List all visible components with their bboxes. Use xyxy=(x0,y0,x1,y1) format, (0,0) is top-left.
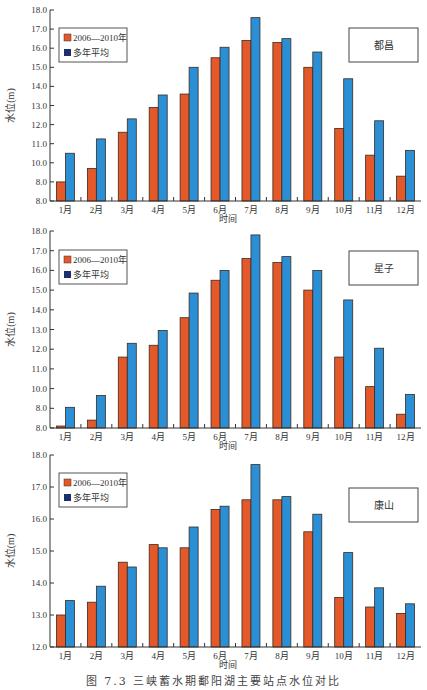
bar-average-5 xyxy=(189,527,198,647)
bar-recent-6 xyxy=(211,509,220,647)
station-title: 都昌 xyxy=(374,40,394,51)
chart-duchang: 1月2月3月4月5月6月7月8月9月10月11月12月8.08.010.011.… xyxy=(0,0,427,225)
bar-average-3 xyxy=(127,343,136,428)
y-tick-label: 13.0 xyxy=(31,101,47,111)
y-tick-label: 17.0 xyxy=(31,246,47,256)
x-tick-label: 10月 xyxy=(335,651,353,661)
y-tick-label: 10.0 xyxy=(31,384,47,394)
y-tick-label: 14.0 xyxy=(31,305,47,315)
bar-average-12 xyxy=(406,395,415,428)
y-tick-label: 15.0 xyxy=(31,62,47,72)
x-tick-label: 3月 xyxy=(121,651,135,661)
bar-recent-9 xyxy=(304,290,313,428)
bar-recent-10 xyxy=(335,597,344,647)
bar-average-10 xyxy=(344,553,353,647)
bar-average-7 xyxy=(251,235,260,428)
bar-recent-3 xyxy=(118,562,127,647)
legend: 2006—2010年多年平均 xyxy=(59,28,127,62)
bar-recent-7 xyxy=(242,500,251,647)
bar-average-11 xyxy=(375,588,384,647)
legend-label-recent: 2006—2010年 xyxy=(73,254,127,265)
bar-average-7 xyxy=(251,18,260,201)
x-tick-label: 5月 xyxy=(182,205,196,215)
bar-recent-11 xyxy=(366,155,375,201)
bar-average-2 xyxy=(96,395,105,428)
bar-average-1 xyxy=(65,153,74,201)
bar-recent-11 xyxy=(366,607,375,647)
y-axis-label: 水位(m) xyxy=(4,88,17,122)
y-tick-label: 12.0 xyxy=(31,120,47,130)
bar-recent-4 xyxy=(149,545,158,647)
bar-recent-6 xyxy=(211,58,220,201)
bar-average-8 xyxy=(282,39,291,201)
y-tick-label: 17.0 xyxy=(31,482,47,492)
y-tick-label: 15.0 xyxy=(31,546,47,556)
chart-kangshan: 1月2月3月4月5月6月7月8月9月10月11月12月12.013.014.01… xyxy=(0,440,427,672)
bar-recent-4 xyxy=(149,345,158,428)
y-tick-label: 16.0 xyxy=(31,265,47,275)
bar-average-9 xyxy=(313,270,322,428)
bar-average-8 xyxy=(282,497,291,647)
bar-average-7 xyxy=(251,465,260,647)
x-tick-label: 7月 xyxy=(244,651,258,661)
bar-average-11 xyxy=(375,121,384,201)
bar-recent-11 xyxy=(366,387,375,428)
bar-average-1 xyxy=(65,407,74,428)
bar-average-4 xyxy=(158,548,167,647)
x-tick-label: 2月 xyxy=(90,651,104,661)
bar-recent-6 xyxy=(211,280,220,428)
bar-recent-1 xyxy=(56,615,65,647)
x-tick-label: 12月 xyxy=(397,205,415,215)
y-tick-label: 16.0 xyxy=(31,514,47,524)
bar-average-2 xyxy=(96,139,105,201)
bar-recent-4 xyxy=(149,107,158,201)
x-tick-label: 3月 xyxy=(121,205,135,215)
bar-recent-9 xyxy=(304,67,313,201)
x-tick-label: 7月 xyxy=(244,205,258,215)
y-tick-label: 17.0 xyxy=(31,24,47,34)
y-tick-label: 8.0 xyxy=(36,196,48,206)
legend-swatch-average xyxy=(64,49,71,56)
chart-duchang-svg: 1月2月3月4月5月6月7月8月9月10月11月12月8.08.010.011.… xyxy=(0,0,427,225)
chart-xingzi: 1月2月3月4月5月6月7月8月9月10月11月12月8.08.010.011.… xyxy=(0,220,427,450)
y-tick-label: 13.0 xyxy=(31,610,47,620)
bar-recent-3 xyxy=(118,132,127,201)
bar-average-5 xyxy=(189,293,198,428)
y-tick-label: 18.0 xyxy=(31,450,47,460)
y-tick-label: 11.0 xyxy=(32,139,48,149)
bar-recent-7 xyxy=(242,259,251,428)
bar-recent-2 xyxy=(87,602,96,647)
x-tick-label: 11月 xyxy=(366,205,384,215)
x-tick-label: 8月 xyxy=(275,205,289,215)
bar-average-8 xyxy=(282,257,291,428)
y-tick-label: 14.0 xyxy=(31,81,47,91)
chart-xingzi-svg: 1月2月3月4月5月6月7月8月9月10月11月12月8.08.010.011.… xyxy=(0,220,427,450)
station-title-box: 星子 xyxy=(349,251,418,285)
x-tick-label: 9月 xyxy=(306,205,320,215)
legend-swatch-recent xyxy=(64,256,71,263)
y-tick-label: 8.0 xyxy=(36,177,48,187)
bar-recent-12 xyxy=(397,176,406,201)
x-tick-label: 1月 xyxy=(59,205,73,215)
bar-average-4 xyxy=(158,95,167,201)
bar-average-11 xyxy=(375,348,384,428)
bar-average-6 xyxy=(220,47,229,201)
y-tick-label: 15.0 xyxy=(31,285,47,295)
bar-average-1 xyxy=(65,601,74,647)
y-tick-label: 8.0 xyxy=(36,423,48,433)
x-tick-label: 9月 xyxy=(306,651,320,661)
x-tick-label: 1月 xyxy=(59,651,73,661)
y-tick-label: 18.0 xyxy=(31,5,47,15)
bar-average-4 xyxy=(158,330,167,428)
bar-recent-3 xyxy=(118,357,127,428)
legend-label-average: 多年平均 xyxy=(73,492,109,503)
bar-average-9 xyxy=(313,52,322,201)
y-tick-label: 18.0 xyxy=(31,226,47,236)
bar-average-12 xyxy=(406,604,415,647)
bar-recent-12 xyxy=(397,613,406,647)
legend: 2006—2010年多年平均 xyxy=(59,250,127,284)
y-tick-label: 13.0 xyxy=(31,325,47,335)
bar-recent-12 xyxy=(397,414,406,428)
chart-kangshan-svg: 1月2月3月4月5月6月7月8月9月10月11月12月12.013.014.01… xyxy=(0,440,427,672)
legend: 2006—2010年多年平均 xyxy=(59,473,127,507)
